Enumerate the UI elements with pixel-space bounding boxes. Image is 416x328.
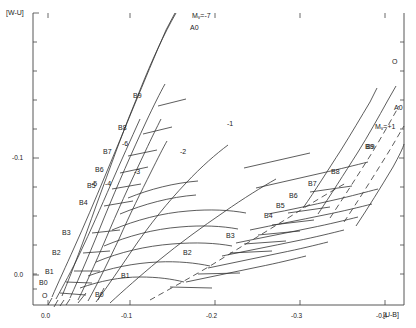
a0-right-label: A0 [394, 104, 403, 111]
x-tick-label-2: -0.2 [206, 313, 217, 320]
y-tick-label-0: -0.1 [12, 155, 23, 162]
right-label-b9: B9 [365, 143, 374, 150]
mag-label-minus3: -3 [134, 168, 140, 175]
y-axis-ticks [33, 13, 39, 289]
mv-value: =-7 [200, 12, 210, 19]
right-label-b3: B3 [226, 232, 235, 239]
right-label-b4: B4 [264, 212, 273, 219]
left-label-o: O [42, 292, 47, 299]
left-label-b0: B0 [39, 279, 48, 286]
mv-plus1-annotation: Mv=+1 [375, 123, 395, 131]
left-label-b9: B9 [133, 92, 142, 99]
left-label-b4: B4 [79, 199, 88, 206]
left-label-b2: B2 [52, 249, 61, 256]
x-tick-label-0: 0.0 [41, 313, 50, 320]
x-tick-label-3: -0.3 [291, 313, 302, 320]
left-label-b3: B3 [62, 229, 71, 236]
plot-frame [33, 13, 404, 305]
mv-minus7-annotation: Mv=-7 [192, 12, 211, 20]
right-label-b2: B2 [183, 249, 192, 256]
x-tick-label-4: -0.4 [376, 313, 387, 320]
right-label-b8: B8 [331, 168, 340, 175]
two-color-diagram-plot [0, 0, 416, 328]
magnitude-curves [62, 13, 404, 303]
left-label-b1: B1 [45, 268, 54, 275]
mag-label-minus4: -4 [105, 180, 111, 187]
left-branch-spectral-lines [52, 13, 175, 299]
x-tick-label-1: -0.1 [121, 313, 132, 320]
right-label-b1: B1 [121, 272, 130, 279]
y-tick-label-1: 0.0 [14, 272, 23, 279]
right-label-b0: B0 [95, 291, 104, 298]
mag-label-minus2: -2 [180, 148, 186, 155]
mag-label-minus6: -6 [122, 140, 128, 147]
left-label-b7: B7 [103, 148, 112, 155]
right-label-b7: B7 [308, 180, 317, 187]
right-label-b6: B6 [289, 192, 298, 199]
right-label-b5: B5 [276, 202, 285, 209]
mag-label-minus5: -5 [91, 180, 97, 187]
right-branch-type-ticks [170, 186, 352, 288]
mv-value-right: =+1 [383, 123, 395, 130]
mag-label-minus1: -1 [227, 120, 233, 127]
left-label-b6: B6 [95, 166, 104, 173]
y-axis-right-ticks [399, 42, 404, 274]
y-axis-title: [W-U] [6, 9, 24, 16]
left-label-b8: B8 [118, 124, 127, 131]
a0-top-label: A0 [190, 24, 199, 31]
o-right-label: O [392, 58, 397, 65]
figure-root: [W-U] [U-B] -0.1 0.0 0.0 -0.1 -0.2 -0.3 … [0, 0, 416, 328]
